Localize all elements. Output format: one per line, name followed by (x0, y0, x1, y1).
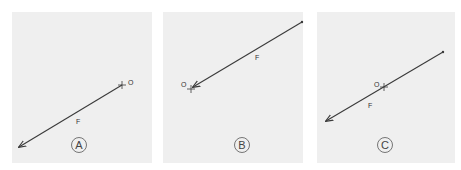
caption-a: A (75, 139, 83, 151)
force-vector-c (326, 52, 443, 121)
diagram-b: O F B (181, 21, 303, 153)
caption-c: C (381, 139, 389, 151)
force-diagrams: O F A O F B O F C (0, 0, 461, 170)
force-label-a: F (76, 118, 80, 125)
diagram-c: O F C (326, 51, 444, 153)
origin-cross-icon (118, 81, 126, 89)
origin-cross-icon (380, 83, 388, 91)
force-vector-a (19, 85, 122, 147)
origin-label-b: O (181, 81, 187, 88)
origin-label-a: O (128, 79, 134, 86)
force-vector-b (193, 22, 302, 87)
diagram-a: O F A (19, 79, 134, 153)
caption-b: B (238, 139, 245, 151)
force-label-b: F (255, 54, 259, 61)
origin-label-c: O (374, 81, 380, 88)
force-label-c: F (368, 102, 372, 109)
